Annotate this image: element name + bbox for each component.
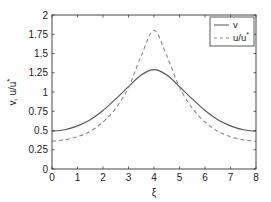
svg-text:v, u/u*: v, u/u* — [5, 79, 18, 106]
y-tick-label: 1.5 — [34, 48, 48, 59]
x-tick-label: 6 — [202, 172, 208, 183]
x-tick-label: 1 — [75, 172, 81, 183]
y-axis-label-main: v, u/u — [7, 82, 18, 106]
y-tick-label: 0.5 — [34, 125, 48, 136]
y-tick-label: 1.75 — [29, 29, 49, 40]
x-tick-label: 3 — [126, 172, 132, 183]
y-tick-label: 0 — [42, 164, 48, 175]
x-tick-label: 0 — [49, 172, 55, 183]
x-tick-label: 8 — [253, 172, 259, 183]
x-axis-label: ξ — [152, 187, 157, 199]
y-tick-label: 0.25 — [29, 144, 49, 155]
line-chart: 012345678 00.250.50.7511.251.51.752 ξ v,… — [0, 0, 271, 202]
y-tick-label: 0.75 — [29, 106, 49, 117]
y-tick-label: 1 — [42, 87, 48, 98]
x-tick-label: 5 — [177, 172, 183, 183]
y-axis-label-superscript: * — [5, 79, 14, 82]
x-tick-label: 7 — [228, 172, 234, 183]
y-tick-label: 2 — [42, 10, 48, 21]
y-tick-label: 1.25 — [29, 67, 49, 78]
x-tick-label: 4 — [151, 172, 157, 183]
legend: v u/u* — [210, 17, 254, 46]
x-tick-label: 2 — [100, 172, 106, 183]
y-axis-label: v, u/u* — [5, 79, 18, 106]
legend-label-v: v — [233, 19, 238, 30]
